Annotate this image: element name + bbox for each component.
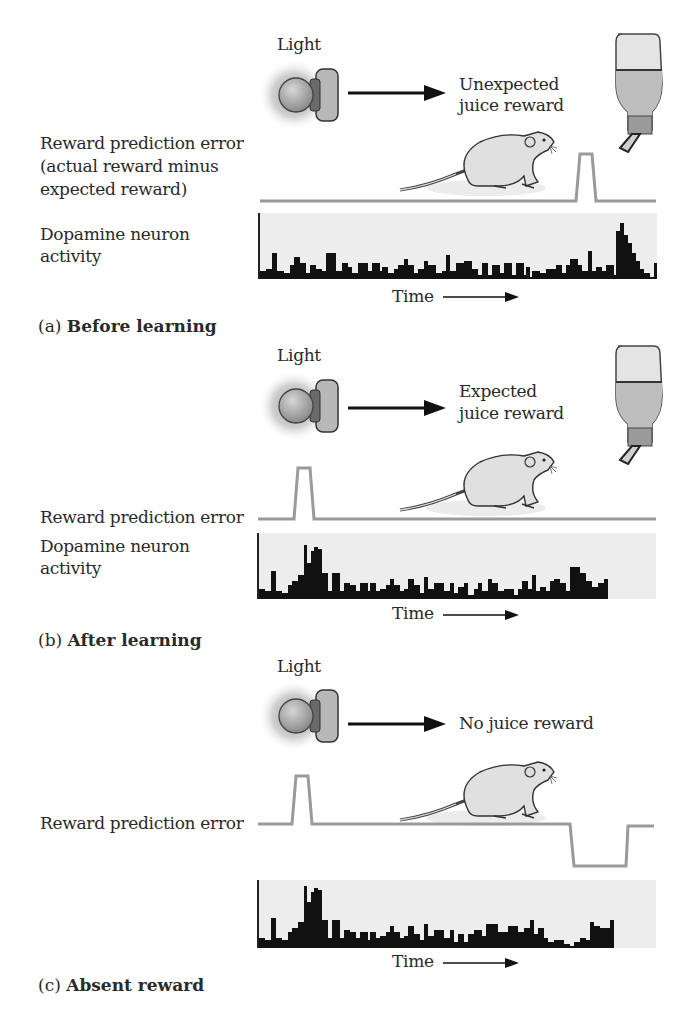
- activity-label-line1: Dopamine neuron: [40, 536, 190, 557]
- panel-caption: (c) Absent reward: [38, 975, 204, 996]
- light-label: Light: [277, 345, 321, 366]
- outcome-label-line1: Unexpected: [459, 74, 559, 95]
- activity-label-line1: Dopamine neuron: [40, 224, 190, 245]
- panel-title: After learning: [68, 630, 202, 650]
- light-bulb-icon: [258, 55, 348, 135]
- panel-c: Light No juice reward: [0, 650, 693, 1025]
- dopamine-activity-histogram: [257, 880, 656, 948]
- rpe-label-line2: (actual reward minus: [40, 156, 219, 177]
- light-bulb-icon: [258, 676, 348, 756]
- water-bottle-icon: [606, 344, 666, 469]
- rpe-trace: [258, 148, 658, 208]
- water-bottle-icon: [606, 32, 666, 157]
- rpe-trace: [256, 774, 658, 874]
- arrow-right-icon: [348, 85, 446, 101]
- time-label: Time: [392, 286, 434, 307]
- panel-letter: (b): [38, 630, 62, 650]
- light-label: Light: [277, 656, 321, 677]
- panel-title: Before learning: [67, 316, 217, 336]
- rpe-trace: [258, 464, 658, 524]
- panel-title: Absent reward: [66, 975, 204, 995]
- panel-a: Light Unexpected juice reward: [0, 0, 693, 340]
- panel-letter: (a): [38, 316, 61, 336]
- dopamine-activity-histogram: [258, 213, 657, 279]
- time-label: Time: [392, 951, 434, 972]
- rpe-label-line1: Reward prediction error: [40, 507, 244, 528]
- panel-letter: (c): [38, 975, 61, 995]
- arrow-right-icon: [443, 610, 519, 620]
- activity-label-line2: activity: [40, 246, 101, 267]
- arrow-right-icon: [348, 716, 446, 732]
- outcome-label-line1: No juice reward: [459, 713, 594, 734]
- rpe-label-line3: expected reward): [40, 179, 187, 200]
- light-label: Light: [277, 34, 321, 55]
- light-bulb-icon: [258, 366, 348, 446]
- time-label: Time: [392, 603, 434, 624]
- rpe-label-line1: Reward prediction error: [40, 133, 244, 154]
- dopamine-activity-histogram: [257, 533, 656, 599]
- panel-caption: (b) After learning: [38, 630, 202, 651]
- arrow-right-icon: [348, 400, 446, 416]
- outcome-label-line2: juice reward: [459, 95, 564, 116]
- activity-label-line2: activity: [40, 558, 101, 579]
- panel-b: Light Expected juice reward: [0, 340, 693, 660]
- arrow-right-icon: [443, 292, 519, 302]
- outcome-label-line1: Expected: [459, 381, 537, 402]
- rpe-label-line1: Reward prediction error: [40, 813, 244, 834]
- arrow-right-icon: [443, 958, 519, 968]
- panel-caption: (a) Before learning: [38, 316, 217, 337]
- outcome-label-line2: juice reward: [459, 403, 564, 424]
